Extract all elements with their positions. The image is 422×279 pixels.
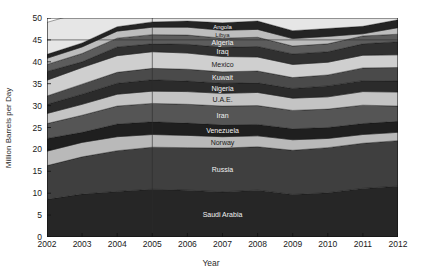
- x-tick-2006: 2006: [178, 239, 197, 249]
- x-tick-2008: 2008: [248, 239, 267, 249]
- x-tick-2010: 2010: [318, 239, 337, 249]
- band-label-norway: Norway: [211, 139, 235, 147]
- x-tick-2002: 2002: [38, 239, 57, 249]
- y-tick-35: 35: [33, 79, 42, 89]
- y-tick-10: 10: [33, 188, 42, 198]
- y-tick-40: 40: [33, 57, 42, 67]
- x-tick-2004: 2004: [108, 239, 127, 249]
- band-label-nigeria: Nigeria: [211, 85, 233, 93]
- y-tick-5: 5: [37, 210, 42, 220]
- x-tick-2005: 2005: [143, 239, 162, 249]
- x-tick-2003: 2003: [73, 239, 92, 249]
- x-axis-title: Year: [0, 258, 422, 268]
- band-label-u-a-e: U.A.E.: [212, 96, 232, 103]
- band-label-algeria: Algeria: [212, 39, 234, 47]
- band-label-mexico: Mexico: [211, 61, 233, 68]
- stacked-area-chart: Million Barrels per Day 0510152025303540…: [0, 0, 422, 279]
- y-tick-20: 20: [33, 144, 42, 154]
- band-label-iran: Iran: [216, 112, 228, 119]
- band-label-russia: Russia: [212, 166, 234, 173]
- x-tick-2009: 2009: [283, 239, 302, 249]
- band-label-iraq: Iraq: [216, 48, 228, 56]
- y-tick-45: 45: [33, 35, 42, 45]
- y-axis-tick-labels: 05101520253035404550: [0, 18, 42, 237]
- x-tick-2011: 2011: [354, 239, 372, 249]
- band-label-angola: Angola: [213, 24, 232, 30]
- y-tick-50: 50: [33, 13, 42, 23]
- y-tick-15: 15: [33, 166, 42, 176]
- y-tick-25: 25: [33, 123, 42, 133]
- band-label-libya: Libya: [215, 32, 230, 38]
- x-tick-2007: 2007: [213, 239, 232, 249]
- x-axis-tick-labels: 2002200320042005200620072008200920102011…: [47, 239, 398, 253]
- band-label-saudi-arabia: Saudi Arabia: [203, 211, 243, 218]
- plot-svg: Saudi ArabiaRussiaNorwayVenezuelaIranU.A…: [47, 18, 398, 237]
- plot-area: Saudi ArabiaRussiaNorwayVenezuelaIranU.A…: [47, 18, 398, 237]
- band-label-venezuela: Venezuela: [206, 127, 239, 134]
- x-tick-2012: 2012: [389, 239, 408, 249]
- band-label-kuwait: Kuwait: [212, 74, 233, 81]
- y-tick-30: 30: [33, 101, 42, 111]
